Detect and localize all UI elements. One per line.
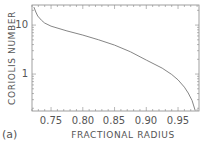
x-tick-label-075: 0.75 (40, 115, 62, 126)
plot-frame (32, 5, 199, 111)
y-tick-label-10: 10 (15, 19, 28, 30)
minor-ticks (32, 5, 199, 111)
panel-label: (a) (2, 128, 17, 141)
y-tick-label-1: 1 (22, 68, 28, 79)
coriolis-curve (34, 7, 195, 110)
x-tick-label-090: 0.90 (135, 115, 157, 126)
x-axis-title: FRACTIONAL RADIUS (71, 130, 174, 140)
x-tick-label-095: 0.95 (167, 115, 189, 126)
y-axis-title: CORIOLIS NUMBER (7, 11, 17, 105)
x-tick-label-080: 0.80 (72, 115, 94, 126)
chart: 10 1 0.75 0.80 0.85 0.90 0.95 FRACTIONAL… (0, 0, 205, 150)
x-tick-label-085: 0.85 (103, 115, 125, 126)
